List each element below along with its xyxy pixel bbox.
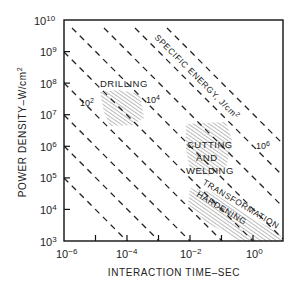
y-tick-1e9: 109 (40, 45, 57, 58)
specific-energy-annotation: SPECIFIC ENERGY, J/cm2 (153, 32, 243, 122)
power-density-vs-interaction-time-chart: 1010 109 108 107 106 105 104 103 10−6 10… (0, 0, 299, 286)
x-axis-ticks (96, 235, 254, 241)
x-tick-1e-6: 10−6 (56, 247, 78, 260)
y-axis-title: POWER DENSITY–W/cm2 (16, 67, 28, 197)
x-axis-title: INTERACTION TIME–SEC (108, 267, 240, 278)
energy-label-1e4: 104 (146, 94, 160, 105)
energy-line-1e0 (64, 178, 127, 241)
y-tick-1e5: 105 (40, 171, 57, 184)
x-tick-labels: 10−6 10−4 10−2 100 (56, 247, 263, 260)
energy-line-1e2 (64, 115, 190, 241)
y-axis-ticks (64, 52, 70, 210)
and-label: AND (196, 152, 218, 163)
y-tick-labels: 1010 109 108 107 106 105 104 103 (34, 14, 57, 248)
x-tick-1e0: 100 (246, 247, 263, 260)
x-tick-1e-2: 10−2 (180, 247, 202, 260)
y-tick-1e6: 106 (40, 140, 57, 153)
energy-line-1e1 (64, 146, 159, 241)
cutting-label: CUTTING (187, 139, 233, 150)
welding-label: WELDING (186, 165, 234, 176)
y-tick-1e8: 108 (40, 77, 57, 90)
y-tick-1e3: 103 (40, 235, 57, 248)
y-tick-1e7: 107 (40, 108, 57, 121)
energy-label-1e6: 106 (256, 140, 270, 151)
y-tick-1e4: 104 (40, 203, 57, 216)
y-tick-1e10: 1010 (34, 14, 56, 27)
drilling-label: DRILLING (100, 78, 148, 89)
x-tick-1e-4: 10−4 (116, 247, 138, 260)
energy-label-1e2: 102 (80, 97, 94, 108)
